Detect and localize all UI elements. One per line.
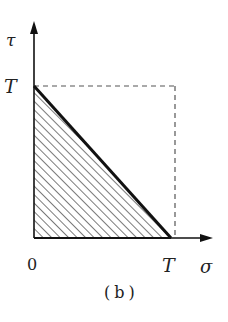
origin-label: 0 bbox=[27, 255, 37, 274]
y-axis-arrow-icon bbox=[30, 21, 38, 34]
stress-region-diagram: τ T 0 T σ (b) bbox=[0, 0, 228, 322]
figure-caption: (b) bbox=[104, 283, 139, 302]
x-tick-label-T: T bbox=[162, 254, 176, 276]
y-tick-label-T: T bbox=[4, 75, 18, 97]
x-axis-label: σ bbox=[200, 256, 213, 277]
x-axis-arrow-icon bbox=[200, 234, 213, 242]
y-axis-label: τ bbox=[6, 30, 16, 50]
